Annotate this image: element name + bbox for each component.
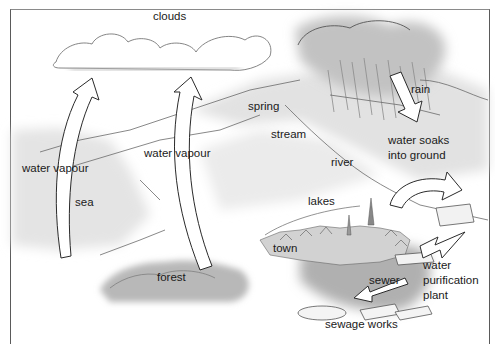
label-lakes: lakes [308, 194, 335, 208]
label-town: town [273, 241, 297, 255]
label-forest: forest [157, 270, 186, 284]
label-water-vapour-sea: water vapour [22, 161, 88, 175]
clouds-outline [53, 34, 271, 71]
label-river: river [331, 155, 353, 169]
label-spring: spring [248, 99, 279, 113]
label-sea: sea [75, 195, 94, 209]
label-water-purification-plant: water purification plant [423, 258, 479, 303]
arrow-plant-to-town [420, 232, 465, 258]
sea-wash [12, 128, 150, 250]
label-water-soaks-into-ground: water soaks into ground [388, 133, 449, 163]
label-sewer: sewer [369, 273, 400, 287]
label-water-vapour-forest: water vapour [144, 146, 210, 160]
label-rain: rain [411, 82, 430, 96]
label-sewage-works: sewage works [325, 317, 398, 331]
label-stream: stream [271, 127, 306, 141]
label-clouds: clouds [153, 9, 186, 23]
